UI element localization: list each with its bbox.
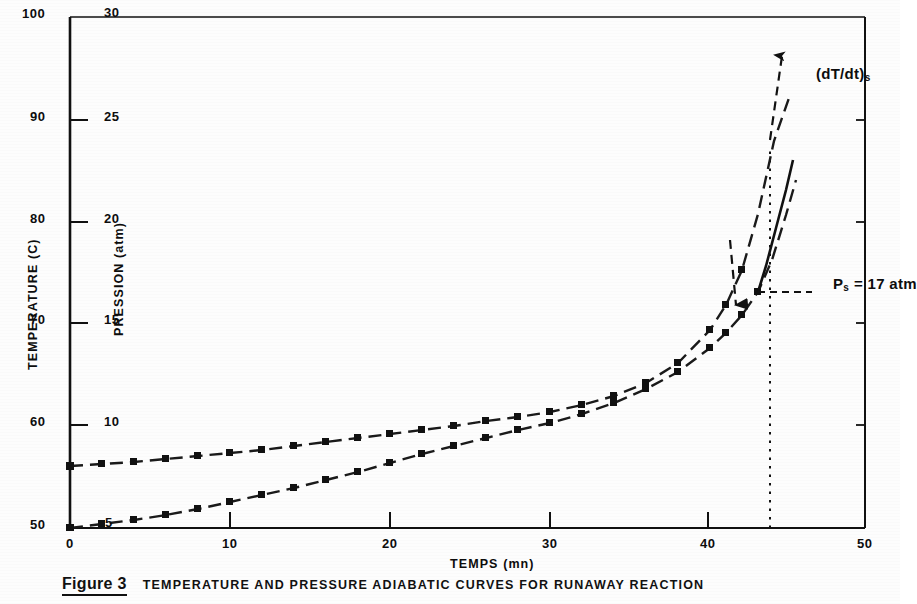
annotation-ps-sub: s <box>843 282 849 293</box>
plot-frame <box>70 17 865 528</box>
figure-caption: Figure 3 TEMPERATURE AND PRESSURE ADIABA… <box>62 575 704 596</box>
annotation-ps-value: = 17 atm <box>854 275 917 292</box>
annotation-dt-dt-text: (dT/dt) <box>816 65 865 82</box>
x-tick-label-20: 20 <box>382 536 397 551</box>
y-tick-label-100: 100 <box>22 6 45 21</box>
y-axis-title-temperature: TEMPERATURE (C) <box>26 238 40 370</box>
y-tick-label-80: 80 <box>30 211 45 226</box>
curve-pressure-markers <box>66 288 761 531</box>
curve-temperature <box>66 95 790 470</box>
annotation-ps: Ps= 17 atm <box>815 258 917 310</box>
y-tick-label-50: 50 <box>30 517 45 532</box>
x-axis-title-temps: TEMPS (mn) <box>450 557 535 571</box>
p-tick-label-5: 5 <box>105 515 113 530</box>
x-tick-label-30: 30 <box>542 536 557 551</box>
x-tick-label-50: 50 <box>857 536 872 551</box>
arrow-up-temperature <box>770 56 782 140</box>
curve-pressure <box>66 160 796 531</box>
x-tick-label-40: 40 <box>700 536 715 551</box>
y-tick-label-90: 90 <box>30 109 45 124</box>
annotation-dt-dt-sub: s <box>865 72 871 83</box>
p-tick-label-30: 30 <box>104 5 119 20</box>
p-tick-label-25: 25 <box>104 109 119 124</box>
figure-caption-text: TEMPERATURE AND PRESSURE ADIABATIC CURVE… <box>143 578 705 592</box>
x-tick-label-10: 10 <box>222 536 237 551</box>
y-tick-label-60: 60 <box>30 414 45 429</box>
y-axis-title-pressure: PRESSION (atm) <box>112 222 126 336</box>
figure-number: Figure 3 <box>62 575 127 596</box>
annotation-dt-dt: (dT/dt)s <box>798 48 871 100</box>
annotation-ps-symbol: P <box>833 275 843 292</box>
y-axis-ticks-temperature <box>70 120 88 425</box>
x-tick-label-0: 0 <box>66 536 74 551</box>
p-tick-label-10: 10 <box>104 414 119 429</box>
x-axis-ticks-time <box>230 512 708 528</box>
curve-temperature-markers <box>66 266 745 470</box>
